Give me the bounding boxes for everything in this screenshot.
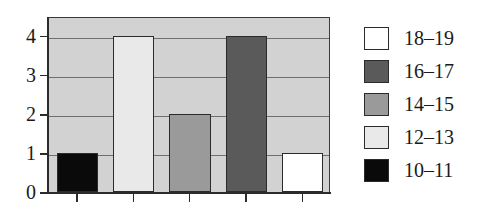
legend-label: 16–17 (404, 61, 454, 82)
legend-swatch-icon (364, 27, 389, 50)
x-tick-2 (133, 193, 134, 202)
bar-14-15 (169, 114, 210, 192)
bar-18-19 (282, 153, 323, 192)
legend-item-16-17[interactable]: 16–17 (364, 57, 482, 86)
legend-label: 18–19 (404, 28, 454, 49)
y-tick-label-1: 1 (8, 143, 36, 163)
x-tick-5 (302, 193, 303, 202)
legend-swatch-icon (364, 126, 389, 149)
legend-label: 14–15 (404, 94, 454, 115)
legend-label: 10–11 (404, 160, 453, 181)
plot-area (48, 17, 330, 193)
x-tick-4 (245, 193, 246, 202)
legend-item-12-13[interactable]: 12–13 (364, 123, 482, 152)
chart-legend: 18–1916–1714–1512–1310–11 (364, 24, 482, 189)
y-tick-1 (40, 153, 49, 155)
y-tick-2 (40, 114, 49, 116)
bar-10-11 (57, 153, 98, 192)
y-tick-3 (40, 75, 49, 77)
legend-item-10-11[interactable]: 10–11 (364, 156, 482, 185)
legend-swatch-icon (364, 60, 389, 83)
legend-label: 12–13 (404, 127, 454, 148)
legend-item-18-19[interactable]: 18–19 (364, 24, 482, 53)
y-axis-line (47, 17, 49, 194)
y-tick-0 (40, 192, 49, 194)
legend-swatch-icon (364, 159, 389, 182)
y-tick-label-4: 4 (8, 26, 36, 46)
bar-12-13 (113, 36, 154, 192)
y-tick-4 (40, 36, 49, 38)
y-tick-label-3: 3 (8, 65, 36, 85)
x-tick-1 (76, 193, 77, 202)
bars-group (49, 18, 329, 192)
bar-16-17 (226, 36, 267, 192)
legend-item-14-15[interactable]: 14–15 (364, 90, 482, 119)
y-tick-label-2: 2 (8, 104, 36, 124)
x-tick-3 (189, 193, 190, 202)
bar-chart-figure: 01234 18–1916–1714–1512–1310–11 (0, 0, 486, 211)
y-tick-label-0: 0 (8, 182, 36, 202)
legend-swatch-icon (364, 93, 389, 116)
